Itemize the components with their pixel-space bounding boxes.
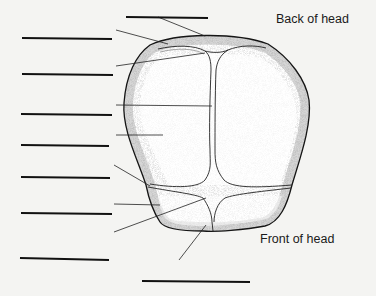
skull-diagram: [0, 0, 376, 296]
answer-blank-9[interactable]: [142, 281, 250, 282]
answer-blank-7[interactable]: [21, 213, 112, 214]
leader-line-lambdoid-suture: [116, 30, 168, 44]
answer-blank-6[interactable]: [21, 177, 110, 178]
answer-blank-4[interactable]: [21, 114, 112, 115]
answer-blank-8[interactable]: [20, 258, 109, 260]
leader-line-posterior-fontanelle: [158, 17, 205, 36]
caption-back-of-head: Back of head: [276, 12, 349, 26]
answer-blank-5[interactable]: [21, 145, 109, 146]
caption-front-of-head: Front of head: [260, 232, 334, 246]
answer-blank-3[interactable]: [22, 74, 113, 75]
answer-blank-1[interactable]: [126, 17, 208, 18]
answer-blank-2[interactable]: [22, 38, 112, 39]
